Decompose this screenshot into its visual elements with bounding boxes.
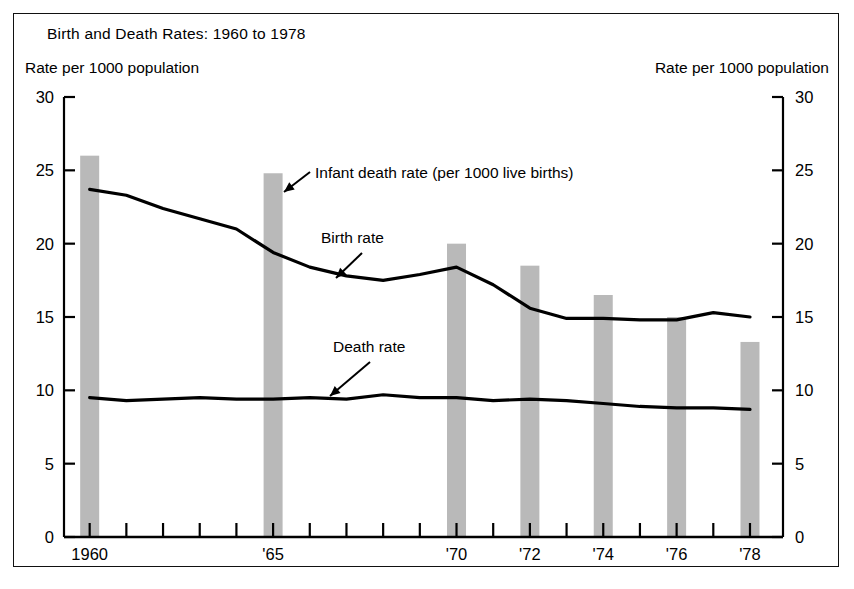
y-tick-label-left-5: 5 bbox=[45, 455, 54, 473]
y-tick-label-left-25: 25 bbox=[36, 161, 54, 179]
bar-1978 bbox=[740, 342, 759, 537]
line-series-group bbox=[90, 189, 750, 409]
line-death-rate bbox=[90, 395, 750, 410]
bar-1970 bbox=[447, 244, 466, 537]
y-tick-label-right-0: 0 bbox=[795, 528, 804, 546]
x-tick-label-1978: '78 bbox=[739, 545, 761, 563]
x-tick-label-1970: '70 bbox=[446, 545, 468, 563]
bar-1976 bbox=[667, 317, 686, 537]
bar-1974 bbox=[594, 295, 613, 537]
y-tick-label-left-10: 10 bbox=[36, 381, 54, 399]
annotation-birth-rate: Birth rate bbox=[321, 229, 384, 246]
annotation-infant-death-rate: Infant death rate (per 1000 live births) bbox=[315, 164, 573, 181]
y-tick-label-right-10: 10 bbox=[795, 381, 813, 399]
x-tick-label-1972: '72 bbox=[519, 545, 541, 563]
line-birth-rate bbox=[90, 189, 750, 320]
y-tick-label-left-30: 30 bbox=[36, 88, 54, 106]
y-tick-label-right-5: 5 bbox=[795, 455, 804, 473]
x-tick-label-1965: '65 bbox=[262, 545, 284, 563]
y-tick-label-left-20: 20 bbox=[36, 235, 54, 253]
annotation-death-rate: Death rate bbox=[333, 338, 405, 355]
y-tick-label-left-15: 15 bbox=[36, 308, 54, 326]
bar-1960 bbox=[80, 156, 99, 537]
x-tick-label-1960: 1960 bbox=[71, 545, 108, 563]
y-tick-label-right-20: 20 bbox=[795, 235, 813, 253]
y-tick-label-right-30: 30 bbox=[795, 88, 813, 106]
figure-chart-birth-death-rates: Birth and Death Rates: 1960 to 1978 Rate… bbox=[0, 0, 854, 589]
axes-group: 0055101015152020252530301960'65'70'72'74… bbox=[36, 88, 814, 563]
plot-area: 0055101015152020252530301960'65'70'72'74… bbox=[0, 0, 854, 589]
y-tick-label-left-0: 0 bbox=[45, 528, 54, 546]
bar-1965 bbox=[264, 173, 283, 537]
y-tick-label-right-15: 15 bbox=[795, 308, 813, 326]
y-tick-label-right-25: 25 bbox=[795, 161, 813, 179]
x-tick-label-1974: '74 bbox=[592, 545, 614, 563]
x-tick-label-1976: '76 bbox=[666, 545, 688, 563]
